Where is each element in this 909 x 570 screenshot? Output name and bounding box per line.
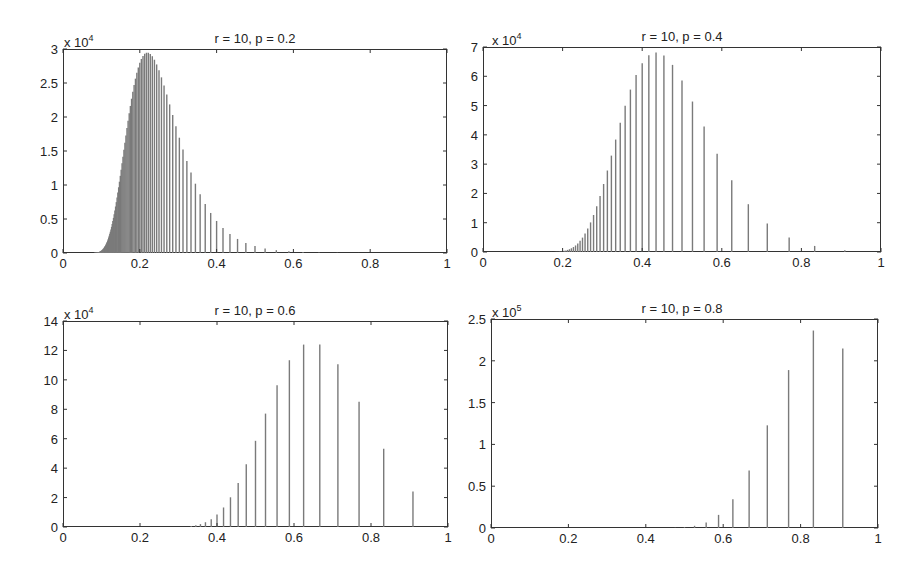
x-tick-label: 0.4 xyxy=(633,255,651,270)
y-tick-label: 4 xyxy=(471,127,478,142)
y-tick-label: 2 xyxy=(479,353,486,368)
y-tick-label: 1.5 xyxy=(40,144,58,159)
y-tick-label: 8 xyxy=(51,402,58,417)
y-tick-label: 1 xyxy=(51,178,58,193)
x-tick-label: 1 xyxy=(444,530,451,545)
x-tick-label: 0 xyxy=(59,256,66,271)
y-tick-label: 2 xyxy=(471,186,478,201)
x-tick-label: 0 xyxy=(479,255,486,270)
x-tick-label: 0.6 xyxy=(284,256,302,271)
y-tick-label: 6 xyxy=(51,431,58,446)
y-tick-label: 0.5 xyxy=(468,479,486,494)
x-tick-label: 1 xyxy=(877,255,884,270)
y-tick-label: 4 xyxy=(51,461,58,476)
x-tick-label: 0.8 xyxy=(792,531,810,546)
x-tick-label: 1 xyxy=(443,256,450,271)
y-tick-label: 2.5 xyxy=(468,312,486,327)
y-tick-label: 3 xyxy=(471,157,478,172)
x-tick-label: 0.4 xyxy=(208,530,226,545)
x-tick-label: 0 xyxy=(487,531,494,546)
y-tick-label: 2 xyxy=(51,110,58,125)
y-tick-label: 2.5 xyxy=(40,76,58,91)
x-tick-label: 0.6 xyxy=(713,255,731,270)
y-tick-label: 1 xyxy=(471,215,478,230)
x-tick-label: 0.8 xyxy=(361,256,379,271)
x-tick-label: 0.2 xyxy=(559,531,577,546)
x-tick-label: 0 xyxy=(59,530,66,545)
x-tick-label: 0.8 xyxy=(362,530,380,545)
x-tick-label: 0.2 xyxy=(131,530,149,545)
y-tick-label: 0 xyxy=(471,245,478,260)
y-tick-label: 0 xyxy=(479,521,486,536)
y-tick-label: 1 xyxy=(479,437,486,452)
x-tick-label: 0.6 xyxy=(285,530,303,545)
y-tick-label: 14 xyxy=(44,314,58,329)
y-tick-label: 12 xyxy=(44,343,58,358)
x-tick-label: 0.2 xyxy=(131,256,149,271)
y-tick-label: 10 xyxy=(44,372,58,387)
stem-plots xyxy=(0,0,909,570)
x-tick-label: 0.2 xyxy=(554,255,572,270)
y-tick-label: 0.5 xyxy=(40,212,58,227)
y-tick-label: 0 xyxy=(51,246,58,261)
x-tick-label: 0.8 xyxy=(792,255,810,270)
y-tick-label: 6 xyxy=(471,69,478,84)
y-tick-label: 2 xyxy=(51,490,58,505)
y-tick-label: 1.5 xyxy=(468,395,486,410)
y-tick-label: 7 xyxy=(471,40,478,55)
x-tick-label: 0.4 xyxy=(208,256,226,271)
y-tick-label: 5 xyxy=(471,98,478,113)
y-tick-label: 0 xyxy=(51,520,58,535)
x-tick-label: 0.4 xyxy=(637,531,655,546)
x-tick-label: 0.6 xyxy=(714,531,732,546)
y-tick-label: 3 xyxy=(51,42,58,57)
x-tick-label: 1 xyxy=(874,531,881,546)
